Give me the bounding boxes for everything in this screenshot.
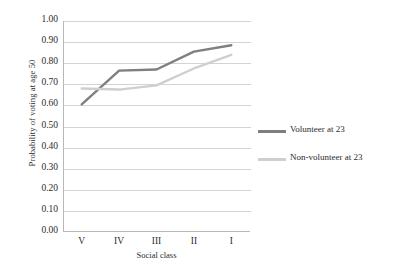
y-tick-label: 0.30	[18, 162, 58, 172]
legend-item-nonvolunteer: Non-volunteer at 23	[290, 152, 402, 163]
y-tick-label: 0.50	[18, 120, 58, 130]
legend-label-nonvolunteer: Non-volunteer at 23	[290, 152, 402, 163]
legend-swatch-volunteer	[258, 130, 286, 133]
chart-legend: Volunteer at 23 Non-volunteer at 23	[290, 124, 402, 180]
y-tick-label: 0.40	[18, 141, 58, 151]
y-tick-label: 0.10	[18, 204, 58, 214]
x-tick-label: IV	[99, 236, 139, 246]
y-tick-label: 0.70	[18, 77, 58, 87]
x-tick-label: III	[137, 236, 177, 246]
x-axis-title: Social class	[63, 250, 250, 260]
legend-item-volunteer: Volunteer at 23	[290, 124, 402, 135]
y-tick-label: 0.60	[18, 98, 58, 108]
x-tick-label: V	[62, 236, 102, 246]
y-tick-label: 0.00	[18, 225, 58, 235]
series-line	[82, 45, 232, 104]
y-tick-label: 0.90	[18, 35, 58, 45]
chart-page: Probability of voting at age 50 1.000.90…	[0, 0, 402, 273]
legend-swatch-nonvolunteer	[258, 158, 286, 161]
x-tick-label: I	[211, 236, 251, 246]
legend-label-volunteer: Volunteer at 23	[290, 124, 402, 135]
x-tick-label: II	[174, 236, 214, 246]
y-tick-label: 0.80	[18, 56, 58, 66]
y-tick-label: 1.00	[18, 14, 58, 24]
y-tick-label: 0.20	[18, 183, 58, 193]
